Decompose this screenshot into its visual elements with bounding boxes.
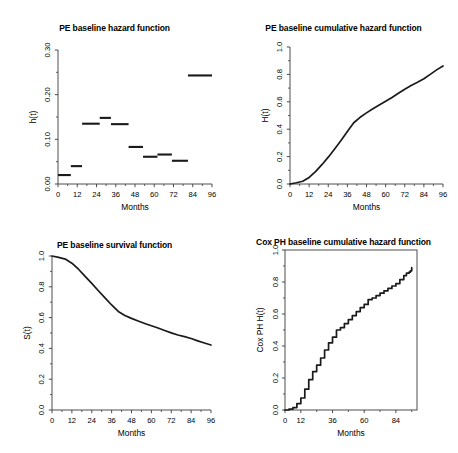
x-tick-label: 60 — [360, 416, 368, 425]
x-tick-label: 0 — [56, 190, 60, 199]
y-tick-label: 0.4 — [271, 341, 280, 352]
y-tick-label: 0.2 — [37, 374, 46, 385]
x-tick-label: 84 — [187, 416, 195, 425]
y-tick-label: 0.2 — [271, 373, 280, 384]
data-curve — [52, 256, 211, 345]
x-tick-label: 60 — [381, 190, 389, 199]
x-tick-label: 72 — [167, 416, 175, 425]
x-tick-label: 36 — [343, 190, 351, 199]
x-tick-label: 96 — [208, 190, 216, 199]
x-tick-label: 96 — [207, 416, 215, 425]
x-tick-label: 60 — [147, 416, 155, 425]
x-tick-label: 12 — [297, 416, 305, 425]
y-tick-label: 0.0 — [275, 179, 284, 190]
x-tick-label: 24 — [92, 190, 100, 199]
x-tick-label: 24 — [88, 416, 96, 425]
y-tick-label: 0.10 — [43, 132, 52, 147]
panel-pe-baseline-survival: PE baseline survival function 0122436486… — [0, 226, 229, 453]
y-tick-label: 0.00 — [43, 177, 52, 192]
y-tick-label: 0.0 — [37, 405, 46, 416]
y-tick-label: 1.0 — [271, 245, 280, 256]
x-tick-label: 36 — [112, 190, 120, 199]
panel-pe-baseline-cumulative-hazard: PE baseline cumulative hazard function 0… — [229, 0, 458, 226]
x-tick-label: 48 — [362, 190, 370, 199]
x-axis-label: Months — [121, 202, 148, 212]
y-tick-label: 0.8 — [271, 277, 280, 288]
plot-pe-baseline-survival: 012243648607284960.00.20.40.60.81.0Month… — [0, 226, 229, 453]
x-tick-label: 0 — [283, 416, 287, 425]
plot-frame — [285, 250, 417, 410]
x-tick-label: 0 — [50, 416, 54, 425]
y-tick-label: 0.8 — [275, 69, 284, 80]
x-tick-label: 12 — [305, 190, 313, 199]
y-tick-label: 1.0 — [275, 42, 284, 53]
x-tick-label: 12 — [68, 416, 76, 425]
x-tick-label: 72 — [401, 190, 409, 199]
x-tick-label: 36 — [107, 416, 115, 425]
panel-cox-ph-baseline-cumulative-hazard: Cox PH baseline cumulative hazard functi… — [229, 226, 458, 453]
y-tick-label: 1.0 — [37, 251, 46, 262]
x-tick-label: 48 — [127, 416, 135, 425]
data-curve — [285, 268, 412, 410]
x-tick-label: 60 — [150, 190, 158, 199]
figure-grid: PE baseline hazard function 012243648607… — [0, 0, 458, 453]
x-axis-label: Months — [337, 428, 364, 438]
x-tick-label: 24 — [324, 190, 332, 199]
x-tick-label: 72 — [169, 190, 177, 199]
x-axis-label: Months — [353, 202, 380, 212]
panel-pe-baseline-hazard: PE baseline hazard function 012243648607… — [0, 0, 229, 226]
y-tick-label: 0.30 — [43, 43, 52, 58]
y-tick-label: 0.6 — [275, 97, 284, 108]
y-axis-label: H(t) — [260, 108, 270, 122]
x-tick-label: 96 — [439, 190, 447, 199]
y-axis-label: S(t) — [22, 326, 32, 340]
x-tick-label: 48 — [131, 190, 139, 199]
y-tick-label: 0.4 — [37, 343, 46, 354]
x-tick-label: 0 — [288, 190, 292, 199]
plot-pe-baseline-hazard: 012243648607284960.000.100.200.30Monthsh… — [0, 0, 229, 226]
x-axis-label: Months — [118, 428, 145, 438]
x-tick-label: 84 — [189, 190, 197, 199]
plot-cox-ph-baseline-cumulative-hazard: 0123660840.00.20.40.60.81.0MonthsCox PH … — [229, 226, 458, 453]
hazard-segments — [58, 75, 212, 175]
plot-pe-baseline-cumulative-hazard: 012243648607284960.00.20.40.60.81.0Month… — [229, 0, 458, 226]
y-tick-label: 0.0 — [271, 405, 280, 416]
y-tick-label: 0.2 — [275, 151, 284, 162]
x-tick-label: 36 — [328, 416, 336, 425]
x-tick-label: 84 — [420, 190, 428, 199]
x-tick-label: 84 — [392, 416, 400, 425]
x-tick-label: 12 — [73, 190, 81, 199]
y-tick-label: 0.4 — [275, 124, 284, 135]
data-curve — [290, 66, 443, 184]
y-axis-label: h(t) — [28, 111, 38, 124]
y-tick-label: 0.6 — [271, 309, 280, 320]
y-tick-label: 0.6 — [37, 312, 46, 323]
y-tick-label: 0.8 — [37, 282, 46, 293]
y-axis-label: Cox PH H(t) — [255, 307, 265, 352]
y-tick-label: 0.20 — [43, 87, 52, 102]
